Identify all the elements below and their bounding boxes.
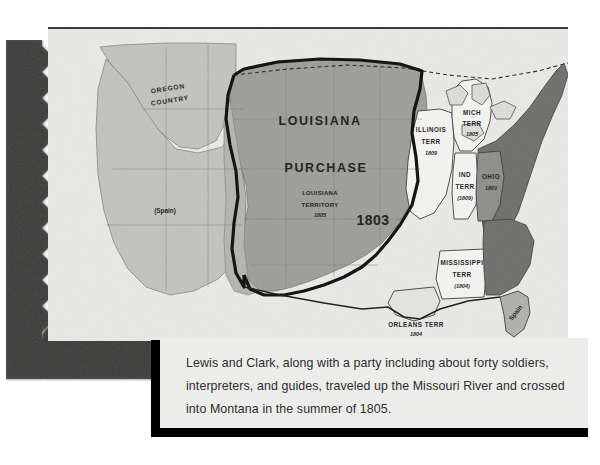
louisiana-purchase-map: OREGON COUNTRY LOUISIANA PURCHASE LOUISI…	[48, 29, 568, 341]
map-figure: OREGON COUNTRY LOUISIANA PURCHASE LOUISI…	[48, 27, 568, 341]
paper-grain-overlay	[48, 29, 568, 341]
caption-text: Lewis and Clark, along with a party incl…	[186, 352, 566, 421]
caption-box: Lewis and Clark, along with a party incl…	[160, 338, 588, 428]
